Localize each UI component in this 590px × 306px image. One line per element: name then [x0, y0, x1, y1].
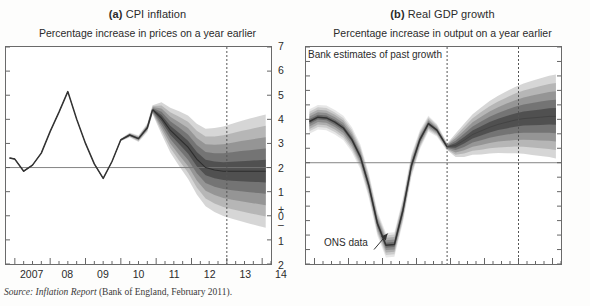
x-tick-label: 14: [275, 268, 287, 280]
panel-b-dashed-markers: [306, 47, 561, 264]
panel-a-axis-caption: Percentage increase in prices on a year …: [0, 27, 295, 39]
source-prefix: Source:: [4, 287, 33, 297]
y-tick-label: 7: [278, 41, 284, 52]
y-tick-label: 5: [278, 89, 284, 100]
y-tick-label: 3: [278, 138, 284, 149]
label-bank-estimates-of-past-growth: Bank estimates of past growth: [308, 49, 442, 60]
source-rest: (Bank of England, February 2011).: [99, 287, 232, 297]
label-ons-data: ONS data: [324, 237, 368, 248]
panel-a-plot-frame: [5, 46, 272, 265]
panel-a-title: (a) CPI inflation: [0, 8, 295, 20]
panel-a-y-tick-labels: 7654321+0–12: [278, 46, 292, 265]
x-tick-label: 09: [97, 268, 109, 280]
x-tick-label: 2007: [20, 268, 43, 280]
x-tick-label: 12: [204, 268, 216, 280]
panel-a-letter: (a): [109, 8, 123, 20]
y-tick-label: –: [278, 218, 284, 229]
panel-a-plot-canvas: [6, 47, 271, 264]
panel-a-x-tick-labels: 200708091011121314: [5, 268, 272, 284]
x-tick-label: 10: [133, 268, 145, 280]
source-note: Source: Inflation Report (Bank of Englan…: [4, 287, 232, 297]
panel-b-axis-caption: Percentage increase in output on a year …: [295, 27, 590, 39]
panel-b-plot-canvas: [306, 47, 561, 264]
y-tick-label: 4: [278, 114, 284, 125]
x-tick-label: 08: [61, 268, 73, 280]
source-publication: Inflation Report: [36, 287, 97, 297]
y-tick-label: 2: [278, 162, 284, 173]
panel-b-title-text: Real GDP growth: [408, 8, 495, 20]
panel-b-fan-bands: [309, 75, 556, 258]
y-tick-label: 1: [278, 187, 284, 198]
x-tick-label: 13: [239, 268, 251, 280]
y-tick-label: 6: [278, 65, 284, 76]
panel-b-plot-frame: Bank estimates of past growth ONS data: [305, 46, 562, 265]
panel-b-title: (b) Real GDP growth: [295, 8, 590, 20]
panel-b-letter: (b): [390, 8, 404, 20]
panel-a-title-text: CPI inflation: [126, 8, 187, 20]
y-tick-label: 1: [278, 235, 284, 246]
x-tick-label: 11: [169, 268, 180, 280]
panel-cpi-inflation: (a) CPI inflation Percentage increase in…: [0, 0, 295, 285]
panel-real-gdp-growth: (b) Real GDP growth Percentage increase …: [295, 0, 590, 285]
